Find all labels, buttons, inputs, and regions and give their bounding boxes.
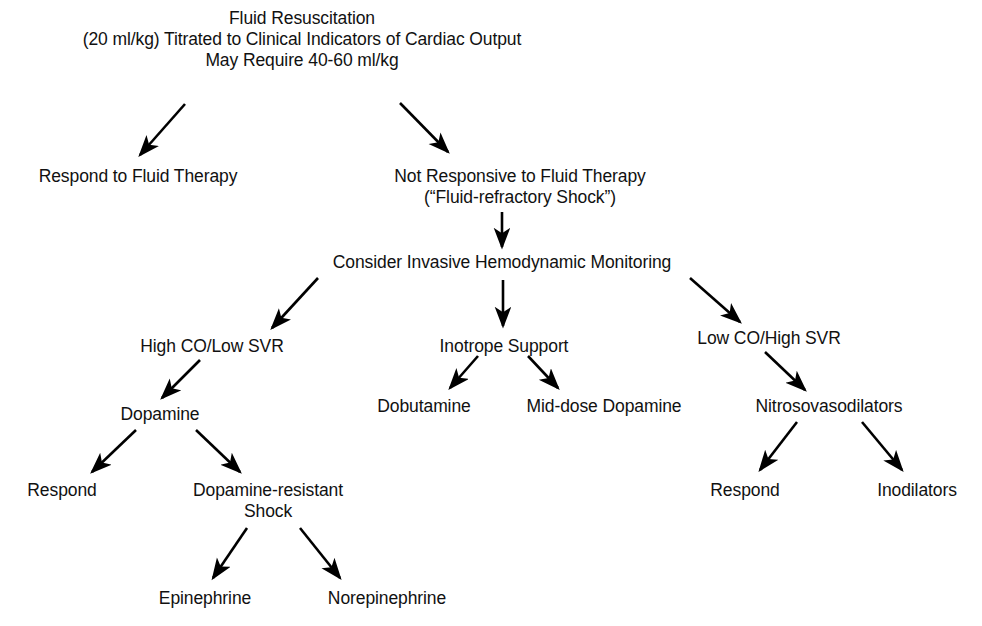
node-line: (20 ml/kg) Titrated to Clinical Indicato… — [83, 29, 522, 50]
node-epinephrine: Epinephrine — [159, 588, 251, 609]
node-line: Shock — [193, 501, 343, 522]
node-line: Inotrope Support — [440, 336, 569, 357]
node-inotrope-support: Inotrope Support — [440, 336, 569, 357]
node-line: Consider Invasive Hemodynamic Monitoring — [333, 252, 671, 273]
flow-arrow — [196, 430, 240, 472]
flow-arrow — [765, 352, 805, 390]
node-norepinephrine: Norepinephrine — [328, 588, 446, 609]
node-line: Respond — [710, 480, 779, 501]
node-line: High CO/Low SVR — [140, 336, 283, 357]
flow-arrow — [862, 422, 902, 470]
node-line: Inodilators — [877, 480, 957, 501]
node-consider-invasive-hemodynamic-monitoring: Consider Invasive Hemodynamic Monitoring — [333, 252, 671, 273]
node-dobutamine: Dobutamine — [377, 396, 470, 417]
flowchart-arrows — [0, 0, 982, 626]
node-line: Fluid Resuscitation — [83, 8, 522, 29]
flow-arrow — [450, 356, 478, 388]
node-line: Low CO/High SVR — [697, 328, 840, 349]
node-not-responsive-to-fluid-therapy: Not Responsive to Fluid Therapy(“Fluid-r… — [394, 166, 645, 208]
flow-arrow — [162, 360, 200, 398]
node-respond-dopamine: Respond — [27, 480, 96, 501]
flow-arrow — [272, 278, 318, 328]
node-line: May Require 40-60 ml/kg — [83, 50, 522, 71]
node-line: Norepinephrine — [328, 588, 446, 609]
flow-arrow — [760, 422, 797, 470]
flow-arrow — [400, 103, 448, 152]
node-inodilators: Inodilators — [877, 480, 957, 501]
node-line: Dobutamine — [377, 396, 470, 417]
node-dopamine: Dopamine — [121, 404, 200, 425]
flow-arrow — [300, 528, 340, 578]
node-fluid-resuscitation: Fluid Resuscitation(20 ml/kg) Titrated t… — [83, 8, 522, 71]
flow-arrow — [140, 104, 185, 155]
flow-arrow — [92, 430, 136, 472]
node-mid-dose-dopamine: Mid-dose Dopamine — [527, 396, 682, 417]
node-line: Mid-dose Dopamine — [527, 396, 682, 417]
node-respond-nitroso: Respond — [710, 480, 779, 501]
node-low-co-high-svr: Low CO/High SVR — [697, 328, 840, 349]
flow-arrow — [690, 278, 740, 322]
flow-arrow — [528, 356, 558, 388]
flowchart-canvas: Fluid Resuscitation(20 ml/kg) Titrated t… — [0, 0, 982, 626]
node-respond-to-fluid-therapy: Respond to Fluid Therapy — [39, 166, 238, 187]
node-dopamine-resistant-shock: Dopamine-resistantShock — [193, 480, 343, 522]
node-line: Dopamine — [121, 404, 200, 425]
node-line: Epinephrine — [159, 588, 251, 609]
node-line: Respond — [27, 480, 96, 501]
node-line: Respond to Fluid Therapy — [39, 166, 238, 187]
node-line: Not Responsive to Fluid Therapy — [394, 166, 645, 187]
node-line: (“Fluid-refractory Shock”) — [394, 187, 645, 208]
node-nitrosovasodilators: Nitrosovasodilators — [756, 396, 903, 417]
node-line: Dopamine-resistant — [193, 480, 343, 501]
node-line: Nitrosovasodilators — [756, 396, 903, 417]
node-high-co-low-svr: High CO/Low SVR — [140, 336, 283, 357]
flow-arrow — [213, 528, 247, 578]
